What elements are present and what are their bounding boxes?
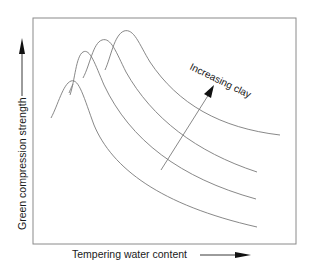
increasing-clay-label: Increasing clay <box>188 61 253 100</box>
x-axis-arrowhead-icon <box>235 252 251 258</box>
chart: Increasing clay Green compression streng… <box>0 0 312 279</box>
increasing-clay-arrow-line <box>161 94 209 170</box>
increasing-clay-arrowhead-icon <box>204 85 214 98</box>
x-axis-label: Tempering water content <box>72 248 187 260</box>
curve-2 <box>70 51 256 199</box>
y-axis-label: Green compression strength <box>16 97 28 230</box>
curve-1 <box>51 81 257 227</box>
y-axis-arrowhead-icon <box>19 38 25 54</box>
